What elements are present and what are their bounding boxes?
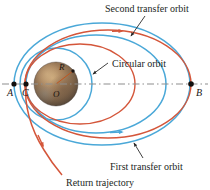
orbit-transfer-diagram: Second transfer orbit Circular orbit Fir… bbox=[0, 0, 210, 190]
point-b-dot bbox=[188, 81, 194, 87]
label-return-trajectory: Return trajectory bbox=[66, 177, 134, 188]
point-a-dot bbox=[11, 81, 16, 86]
leader-circular-orbit bbox=[93, 63, 108, 74]
label-point-b: B bbox=[196, 87, 202, 98]
label-point-a: A bbox=[6, 87, 14, 98]
blue-orbit-direction-arrow bbox=[110, 132, 122, 133]
label-planet-center: O bbox=[53, 89, 60, 99]
label-planet-radius: R bbox=[58, 62, 65, 72]
label-point-c: C bbox=[22, 87, 29, 98]
label-second-transfer-orbit: Second transfer orbit bbox=[105, 3, 189, 14]
point-c-dot bbox=[23, 81, 28, 86]
leader-first-transfer-orbit bbox=[134, 143, 143, 158]
label-circular-orbit: Circular orbit bbox=[112, 58, 166, 69]
label-first-transfer-orbit: First transfer orbit bbox=[110, 161, 183, 172]
